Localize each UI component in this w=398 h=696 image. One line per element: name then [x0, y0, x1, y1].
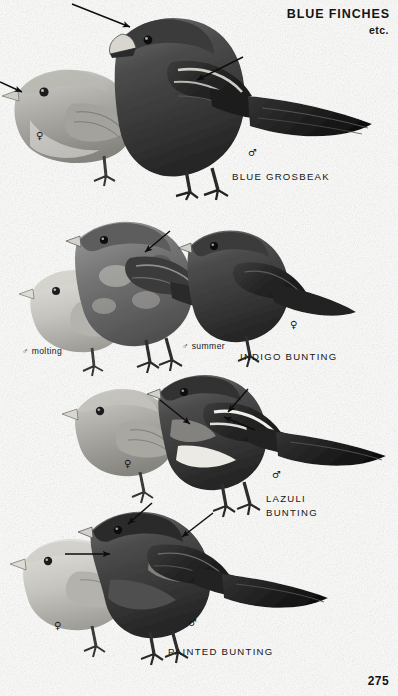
bird-plate-page: BLUE FINCHES etc. BLUE GROSBEAK ♀ ♂ INDI… [0, 0, 398, 696]
lazuli-wingbar-arrow [160, 400, 190, 424]
indigo-molting-male-figure [66, 222, 258, 373]
grosbeak-female-figure [2, 70, 135, 163]
species-name-painted-bunting: PAINTED BUNTING [168, 645, 273, 659]
indigo-female-figure [19, 270, 126, 376]
indigo-plumage-arrow [145, 231, 170, 252]
grosbeak-wingbar-arrow [197, 57, 243, 80]
sex-label-indigo-summer-male: ♂ summer [182, 341, 225, 351]
species-name-blue-grosbeak: BLUE GROSBEAK [232, 170, 330, 184]
species-name-indigo-bunting: INDIGO BUNTING [240, 350, 337, 364]
sex-label-lazuli-female: ♀ [124, 459, 132, 469]
lazuli-breast-arrow [228, 389, 248, 412]
plate-title: BLUE FINCHES [287, 8, 390, 21]
species-name-lazuli-bunting: LAZULI BUNTING [266, 492, 318, 519]
painted-back-arrow [182, 513, 213, 537]
lazuli-belly-arrow [224, 417, 255, 430]
sex-label-painted-male: ♂ [188, 618, 197, 628]
plate-subtitle: etc. [369, 24, 389, 36]
sex-label-lazuli-male: ♂ [272, 470, 281, 480]
grosbeak-bill-arrow [72, 4, 130, 27]
sex-label-painted-female: ♀ [54, 621, 62, 631]
lazuli-female-figure [62, 389, 176, 503]
painted-female-figure [10, 539, 128, 657]
sex-label-grosbeak-male: ♂ [248, 148, 257, 158]
grosbeak-female-bill-arrow [0, 82, 22, 92]
sex-label-grosbeak-female: ♀ [36, 131, 44, 141]
painted-head-arrow [128, 503, 152, 524]
sex-label-indigo-female: ♀ [290, 320, 298, 330]
page-number: 275 [368, 674, 389, 688]
painted-male-figure [78, 512, 328, 665]
sex-label-indigo-molting-male: ♂ molting [22, 346, 62, 356]
